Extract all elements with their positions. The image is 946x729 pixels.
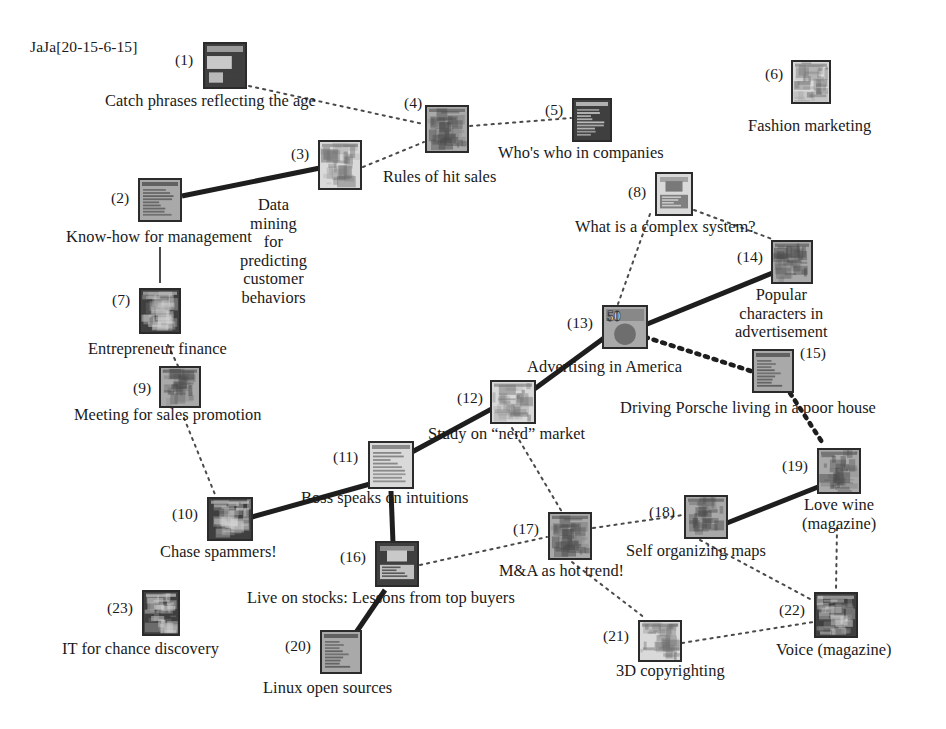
node-caption-9: Meeting for sales promotion (74, 406, 262, 425)
node-caption-5: Who's who in companies (498, 144, 664, 163)
node-number-11: (11) (333, 449, 358, 465)
node-number-15: (15) (800, 345, 826, 361)
node-caption-21: 3D copyrighting (616, 662, 725, 681)
node-caption-20: Linux open sources (263, 679, 392, 698)
node-number-5: (5) (545, 102, 563, 118)
cover-texture (819, 450, 859, 492)
edge-3-4 (363, 142, 424, 167)
node-caption-13: Advertising in America (527, 358, 682, 377)
cover-thumbnail-3[interactable] (318, 140, 362, 190)
edge-4-5 (470, 118, 571, 126)
node-number-18: (18) (649, 504, 675, 520)
node-caption-11: Boss speaks on intuitions (301, 489, 468, 508)
cover-texture (144, 592, 178, 634)
node-caption-18: Self organizing maps (626, 542, 766, 561)
node-number-20: (20) (285, 638, 311, 654)
node-caption-6: Fashion marketing (748, 117, 871, 136)
node-caption-17: M&A as hot trend! (499, 562, 624, 581)
cover-thumbnail-20[interactable] (320, 630, 362, 674)
cover-texture (816, 594, 856, 636)
node-number-9: (9) (133, 380, 151, 396)
node-caption-22: Voice (magazine) (776, 641, 892, 660)
node-number-16: (16) (340, 549, 366, 565)
cover-texture (773, 242, 811, 282)
node-caption-19: Love wine (magazine) (802, 496, 876, 533)
node-number-3: (3) (291, 146, 309, 162)
cover-thumbnail-15[interactable] (752, 349, 794, 393)
cover-thumbnail-7[interactable] (139, 288, 181, 334)
node-number-10: (10) (172, 506, 198, 522)
cover-texture (205, 44, 245, 87)
cover-texture: 50 (604, 307, 646, 347)
cover-thumbnail-18[interactable] (684, 495, 728, 539)
edge-2-3 (182, 168, 320, 196)
node-caption-14: Popular characters in advertisement (735, 286, 828, 342)
cover-thumbnail-16[interactable] (375, 541, 419, 587)
edge-19-22 (836, 528, 837, 590)
node-number-17: (17) (513, 521, 539, 537)
node-caption-2: Know-how for management (66, 228, 252, 247)
edge-9-10 (184, 418, 216, 497)
cover-thumbnail-12[interactable] (490, 380, 536, 424)
cover-thumbnail-4[interactable] (425, 105, 469, 153)
cover-texture (161, 368, 199, 406)
cover-thumbnail-2[interactable] (138, 178, 182, 222)
node-number-7: (7) (112, 292, 130, 308)
cover-texture (322, 632, 360, 672)
cover-thumbnail-17[interactable] (548, 512, 592, 560)
cover-texture (377, 543, 417, 585)
cover-texture (686, 497, 726, 537)
cover-thumbnail-1[interactable] (203, 42, 247, 89)
node-number-4: (4) (404, 95, 422, 111)
node-caption-15: Driving Porsche living in a poor house (620, 399, 876, 418)
node-caption-3: Data mining for predicting customer beha… (240, 196, 307, 307)
cover-texture (427, 107, 467, 151)
cover-thumbnail-21[interactable] (638, 620, 682, 662)
node-caption-12: Study on “nerd” market (428, 425, 585, 444)
cover-texture (140, 180, 180, 220)
cover-thumbnail-6[interactable] (791, 60, 831, 104)
node-caption-7: Entrepreneur finance (88, 340, 227, 359)
node-number-1: (1) (175, 52, 193, 68)
cover-thumbnail-19[interactable] (817, 448, 861, 494)
cover-thumbnail-13[interactable]: 50 (602, 305, 648, 349)
cover-thumbnail-8[interactable] (655, 172, 693, 216)
node-caption-16: Live on stocks: Lessons from top buyers (247, 589, 515, 608)
diagram-canvas: JaJa[20-15-6-15] (1)Catch phrases reflec… (0, 0, 946, 729)
cover-thumbnail-22[interactable] (814, 592, 858, 638)
node-number-23: (23) (107, 600, 133, 616)
cover-thumbnail-9[interactable] (159, 366, 201, 408)
cover-texture (141, 290, 179, 332)
node-number-21: (21) (603, 628, 629, 644)
svg-text:50: 50 (607, 309, 621, 324)
cover-texture (209, 499, 251, 539)
cover-texture (550, 514, 590, 558)
node-number-8: (8) (628, 184, 646, 200)
cover-texture (657, 174, 691, 214)
node-number-22: (22) (779, 602, 805, 618)
node-number-2: (2) (111, 190, 129, 206)
node-caption-10: Chase spammers! (160, 543, 277, 562)
node-caption-8: What is a complex system? (575, 218, 756, 237)
node-number-6: (6) (765, 66, 783, 82)
cover-texture (574, 100, 610, 140)
cover-thumbnail-5[interactable] (572, 98, 612, 142)
node-caption-23: IT for chance discovery (62, 640, 219, 659)
cover-thumbnail-11[interactable] (368, 441, 414, 489)
node-number-12: (12) (457, 390, 483, 406)
cover-texture (492, 382, 534, 422)
node-caption-4: Rules of hit sales (383, 168, 496, 187)
cover-texture (320, 142, 360, 188)
node-number-14: (14) (737, 249, 763, 265)
cover-texture (640, 622, 680, 660)
cover-thumbnail-23[interactable] (142, 590, 180, 636)
node-caption-1: Catch phrases reflecting the age (105, 92, 316, 111)
cover-thumbnail-10[interactable] (207, 497, 253, 541)
cover-texture (793, 62, 829, 102)
cover-thumbnail-14[interactable] (771, 240, 813, 284)
cover-texture (370, 443, 412, 487)
node-number-19: (19) (782, 458, 808, 474)
cover-texture (754, 351, 792, 391)
node-number-13: (13) (567, 315, 593, 331)
